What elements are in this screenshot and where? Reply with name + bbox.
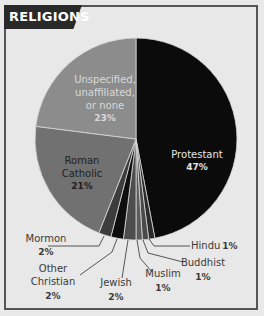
- label-unspecified-pct: 23%: [60, 112, 150, 125]
- label-unspecified-line2: unaffiliated,: [60, 86, 150, 99]
- label-protestant: Protestant 47%: [162, 148, 232, 174]
- label-jewish-pct: 2%: [94, 291, 138, 304]
- leader-hindu: [149, 239, 190, 246]
- label-protestant-name: Protestant: [171, 149, 222, 160]
- label-buddhist: Buddhist 1%: [180, 256, 226, 284]
- leader-jewish: [122, 240, 128, 278]
- label-mormon-pct: 2%: [18, 246, 74, 259]
- label-hindu-pct: 1%: [222, 241, 237, 251]
- label-hindu-name: Hindu: [191, 240, 220, 251]
- label-unspecified-line3: or none: [60, 99, 150, 112]
- label-muslim: Muslim 1%: [141, 267, 185, 295]
- label-unspecified-line1: Unspecified,: [60, 73, 150, 86]
- leader-buddhist: [143, 240, 183, 262]
- label-other-christian-line2: Christian: [28, 275, 78, 288]
- label-other-christian: Other Christian 2%: [28, 262, 78, 303]
- label-jewish-name: Jewish: [94, 276, 138, 289]
- label-protestant-pct: 47%: [162, 161, 232, 174]
- label-other-christian-line1: Other: [28, 262, 78, 275]
- label-mormon-name: Mormon: [18, 232, 74, 245]
- label-other-christian-pct: 2%: [28, 290, 78, 303]
- label-unspecified: Unspecified, unaffiliated, or none 23%: [60, 73, 150, 125]
- label-roman-catholic-line1: Roman: [52, 154, 112, 167]
- label-roman-catholic: Roman Catholic 21%: [52, 154, 112, 193]
- slice-protestant: [136, 38, 237, 238]
- label-buddhist-pct: 1%: [180, 271, 226, 284]
- label-roman-catholic-pct: 21%: [52, 180, 112, 193]
- label-hindu: Hindu1%: [191, 239, 241, 253]
- label-muslim-name: Muslim: [141, 267, 185, 280]
- leader-other-christian: [80, 239, 117, 275]
- label-roman-catholic-line2: Catholic: [52, 167, 112, 180]
- label-buddhist-name: Buddhist: [180, 256, 226, 269]
- label-jewish: Jewish 2%: [94, 276, 138, 304]
- label-mormon: Mormon 2%: [18, 232, 74, 259]
- pie-slices: [35, 38, 237, 240]
- label-muslim-pct: 1%: [141, 282, 185, 295]
